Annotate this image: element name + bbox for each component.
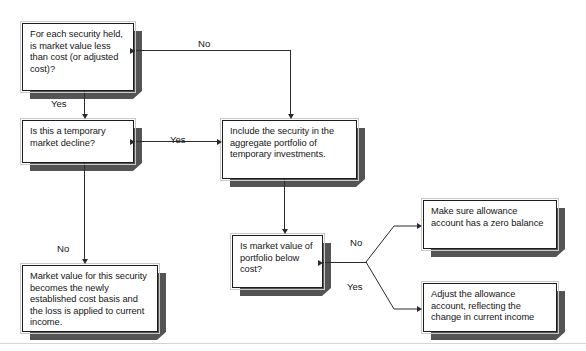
arrowhead-n4-yes bbox=[417, 306, 422, 312]
process-adjust-allowance-account[interactable]: Adjust the allowance account, reflecting… bbox=[423, 283, 557, 332]
decision-security-market-value[interactable]: For each security held, is market value … bbox=[22, 23, 134, 91]
arrowhead-n3-to-n4 bbox=[282, 229, 288, 234]
arrowhead-n1-right-tick bbox=[130, 48, 135, 54]
decision-temporary-decline[interactable]: Is this a temporary market decline? bbox=[22, 120, 134, 163]
arrowhead-n2-no bbox=[82, 259, 88, 264]
edge-label-n4-no: No bbox=[350, 237, 362, 248]
decision-portfolio-below-cost[interactable]: Is market value of portfolio below cost? bbox=[232, 235, 323, 288]
arrowhead-n4-no bbox=[417, 223, 422, 229]
process-include-security[interactable]: Include the security in the aggregate po… bbox=[222, 120, 357, 179]
edge-label-n2-no: No bbox=[57, 243, 69, 254]
edge-label-n1-yes: Yes bbox=[51, 98, 67, 109]
arrowhead-n2-right-tick bbox=[130, 139, 135, 145]
flowchart-canvas: No Yes Yes No No Yes For each security h… bbox=[0, 0, 586, 351]
process-market-value-new-cost-basis[interactable]: Market value for this security becomes t… bbox=[22, 265, 158, 332]
edge-label-n2-yes: Yes bbox=[170, 134, 186, 145]
arrowhead-n1-no bbox=[288, 114, 294, 119]
arrowhead-n4-right-tick bbox=[318, 260, 323, 266]
edge-label-n1-no: No bbox=[198, 38, 210, 49]
edge-label-n4-yes: Yes bbox=[347, 281, 363, 292]
arrowhead-n1-yes bbox=[82, 114, 88, 119]
process-zero-allowance-balance[interactable]: Make sure allowance account has a zero b… bbox=[423, 200, 557, 249]
arrowhead-n2-yes bbox=[217, 139, 222, 145]
